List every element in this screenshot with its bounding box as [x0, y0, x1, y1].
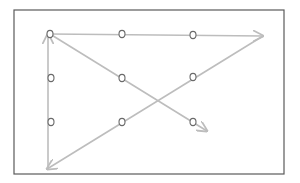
- dot-4: [48, 74, 54, 81]
- dot-3: [190, 31, 196, 38]
- dot-6: [190, 73, 196, 80]
- nine-dots-diagram: [0, 0, 300, 183]
- path-segment-4: [50, 34, 207, 131]
- dot-8: [119, 118, 125, 125]
- dot-2: [119, 30, 125, 37]
- dot-1: [47, 30, 53, 37]
- dot-9: [190, 118, 196, 125]
- path-segment-1: [50, 34, 263, 36]
- dot-7: [48, 118, 54, 125]
- path-segments: [47, 34, 263, 169]
- dot-5: [119, 74, 125, 81]
- path-segment-2: [47, 36, 263, 169]
